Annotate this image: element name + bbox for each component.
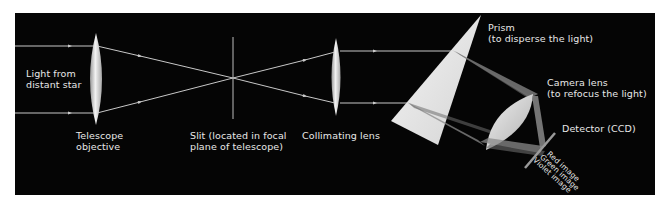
- label-camera-lens: Camera lens (to refocus the light): [547, 77, 647, 99]
- label-line: (to refocus the light): [547, 88, 647, 99]
- label-light-source: Light from distant star: [26, 68, 82, 90]
- label-line: objective: [76, 141, 118, 152]
- label-line: Collimating lens: [302, 130, 380, 141]
- label-line: Light from: [26, 68, 82, 79]
- label-telescope-objective: Telescope objective: [76, 130, 118, 152]
- label-line: Prism: [488, 22, 593, 33]
- label-slit: Slit (located in focal plane of telescop…: [190, 130, 280, 152]
- label-detector: Detector (CCD): [562, 123, 636, 134]
- collimating-lens: [332, 38, 341, 116]
- focused-rays: [97, 46, 335, 113]
- label-line: Detector (CCD): [562, 123, 636, 134]
- label-line: (to disperse the light): [488, 33, 593, 44]
- label-line: Slit (located in focal: [190, 130, 280, 141]
- label-line: distant star: [26, 79, 82, 90]
- label-prism: Prism (to disperse the light): [488, 22, 593, 44]
- label-collimating-lens: Collimating lens: [302, 130, 380, 141]
- label-line: Telescope: [76, 130, 118, 141]
- label-line: plane of telescope): [190, 141, 280, 152]
- label-line: Camera lens: [547, 77, 647, 88]
